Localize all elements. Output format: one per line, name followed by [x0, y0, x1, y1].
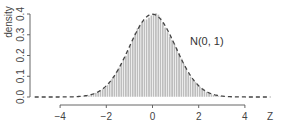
histogram-bar	[150, 15, 152, 97]
distribution-annotation: N(0, 1)	[190, 35, 224, 47]
x-tick-label: 2	[196, 111, 202, 122]
histogram-bar	[155, 13, 157, 97]
histogram-bar	[169, 36, 171, 97]
histogram-bar	[81, 96, 83, 97]
y-tick-label: 0.2	[15, 48, 26, 62]
histogram-bar	[189, 76, 191, 97]
histogram-bar	[199, 87, 201, 97]
histogram-bar	[125, 56, 127, 97]
histogram-bar	[192, 79, 194, 97]
y-axis-title: density	[3, 6, 14, 38]
histogram-bar	[111, 79, 113, 97]
histogram-bar	[162, 22, 164, 97]
histogram-bar	[178, 53, 180, 97]
histogram-bar	[194, 82, 196, 97]
histogram-bar	[164, 27, 166, 97]
histogram-bar	[187, 73, 189, 97]
histogram-bar	[127, 51, 129, 97]
histogram-bar	[141, 22, 143, 97]
histogram-bar	[173, 44, 175, 97]
x-tick-label: 0	[150, 111, 156, 122]
x-tick-label: −4	[54, 111, 66, 122]
histogram-bar	[176, 48, 178, 97]
histogram-bar	[106, 85, 108, 97]
histogram-bar	[120, 64, 122, 97]
histogram-bar	[139, 24, 141, 97]
histogram-bar	[116, 71, 118, 97]
histogram-bar	[210, 94, 212, 97]
histogram-bar	[148, 17, 150, 97]
histogram-bars	[79, 13, 227, 97]
x-tick-label: −2	[101, 111, 113, 122]
histogram-bar	[122, 60, 124, 97]
x-axis-title: Z	[267, 111, 273, 122]
y-tick-label: 0.4	[15, 7, 26, 21]
histogram-bar	[166, 32, 168, 97]
y-tick-label: 0.0	[15, 90, 26, 104]
histogram-bar	[118, 67, 120, 97]
histogram-bar	[185, 69, 187, 97]
histogram-bar	[159, 18, 161, 97]
y-tick-label: 0.1	[15, 69, 26, 83]
y-tick-label: 0.3	[15, 27, 26, 41]
histogram-bar	[146, 19, 148, 97]
density-histogram-chart: 0.00.10.20.30.4 density −4−2024 Z N(0, 1…	[0, 0, 283, 131]
histogram-bar	[129, 45, 131, 97]
histogram-bar	[104, 87, 106, 97]
histogram-bar	[143, 21, 145, 97]
histogram-bar	[134, 33, 136, 97]
histogram-bar	[171, 40, 173, 97]
x-axis: −4−2024 Z	[54, 105, 273, 122]
histogram-bar	[136, 28, 138, 97]
histogram-bar	[88, 95, 90, 97]
histogram-bar	[95, 93, 97, 97]
x-tick-label: 4	[242, 111, 248, 122]
histogram-bar	[203, 90, 205, 97]
histogram-bar	[183, 64, 185, 97]
histogram-bar	[132, 39, 134, 97]
histogram-bar	[157, 14, 159, 97]
y-axis: 0.00.10.20.30.4 density	[3, 6, 30, 104]
histogram-bar	[180, 58, 182, 97]
histogram-bar	[113, 75, 115, 97]
histogram-bar	[102, 89, 104, 97]
histogram-bar	[109, 82, 111, 97]
histogram-bar	[153, 13, 155, 97]
